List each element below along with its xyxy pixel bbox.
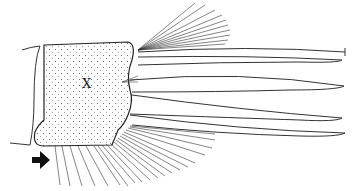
pointer-arrow-icon xyxy=(32,151,50,169)
upper-setae xyxy=(138,3,230,50)
segment-label: X xyxy=(82,76,92,91)
caudal-filaments xyxy=(130,48,345,136)
main-segment xyxy=(34,42,133,146)
illustration: X xyxy=(0,0,356,191)
